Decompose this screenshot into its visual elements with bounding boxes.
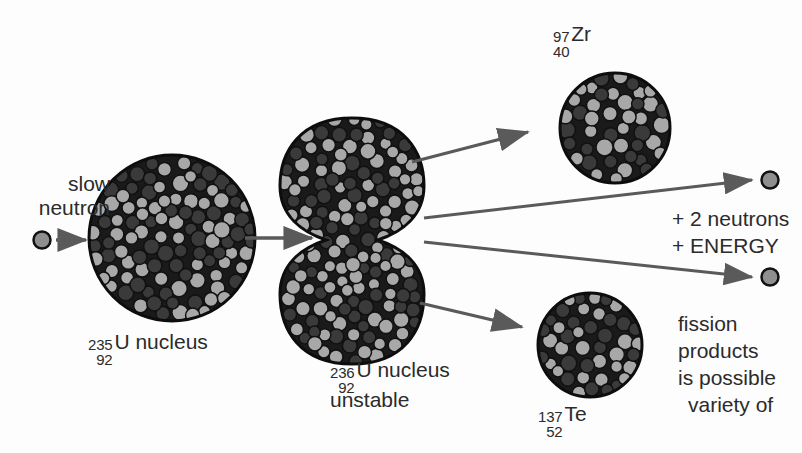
uranium-235-isotope-numbers: 235 92 [88, 337, 112, 367]
uranium-235-symbol: U nucleus [114, 330, 207, 354]
zirconium-97-label: 97 40 Zr [553, 22, 591, 58]
slow-neutron-label: slow neutron [18, 172, 110, 219]
uranium-235-atomic-number: 92 [96, 352, 112, 367]
tellurium-137-nucleus [536, 292, 646, 400]
zirconium-97-isotope-numbers: 97 40 [553, 29, 569, 59]
uranium-235-mass-number: 235 [88, 337, 112, 352]
tellurium-137-isotope-numbers: 137 52 [538, 409, 562, 439]
tellurium-137-atomic-number: 52 [546, 424, 562, 439]
arrow-to-tellurium [420, 303, 522, 327]
zirconium-97-symbol: Zr [571, 22, 591, 46]
zirconium-97-nucleus [558, 69, 671, 185]
slow-neutron-particle [34, 232, 51, 249]
zirconium-97-mass-number: 97 [553, 29, 569, 44]
uranium-235-label: 235 92 U nucleus [88, 330, 208, 366]
uranium-236-symbol: U nucleus [356, 358, 449, 382]
uranium-236-state-label: unstable [330, 388, 409, 412]
emissions-energy-line: + ENERGY [672, 233, 789, 260]
uranium-236-mass-number: 236 [330, 365, 354, 380]
slow-neutron-label-line1: slow [18, 172, 110, 196]
note-line-2: products [678, 338, 776, 365]
note-line-1: fission [678, 311, 776, 338]
fission-diagram-figure: slow neutron 235 92 U nucleus 236 92 U n… [0, 0, 802, 453]
emissions-neutrons-line: + 2 neutrons [672, 206, 789, 233]
tellurium-137-mass-number: 137 [538, 409, 562, 424]
zirconium-97-atomic-number: 40 [553, 44, 569, 59]
uranium-235-nucleus [85, 155, 258, 322]
slow-neutron-label-line2: neutron [18, 196, 110, 220]
note-line-4: variety of [678, 392, 776, 419]
tellurium-137-symbol: Te [564, 402, 586, 426]
arrow-to-zirconium [412, 132, 528, 162]
note-line-3: is possible [678, 365, 776, 392]
tellurium-137-label: 137 52 Te [538, 402, 587, 438]
fission-products-note: fission products is possible variety of [678, 311, 776, 419]
free-neutron-2 [762, 269, 779, 286]
free-neutron-1 [762, 172, 779, 189]
emissions-label: + 2 neutrons + ENERGY [672, 206, 789, 260]
